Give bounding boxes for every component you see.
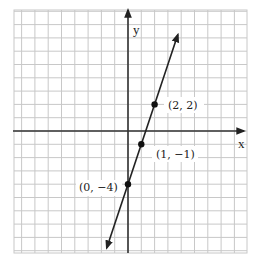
y-axis-label: y (133, 22, 140, 37)
x-axis-label: x (238, 136, 245, 151)
plotted-point (151, 101, 157, 107)
point-label-1-neg1: (1, −1) (156, 148, 195, 161)
point-label-0-neg4: (0, −4) (79, 181, 118, 194)
coordinate-plane: y x (2, 2) (1, −1) (0, −4) (0, 0, 256, 266)
plotted-point (138, 141, 144, 147)
plotted-point (125, 181, 131, 187)
point-label-2-2: (2, 2) (168, 99, 198, 112)
